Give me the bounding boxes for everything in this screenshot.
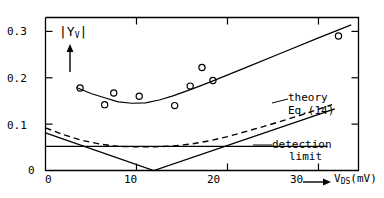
x-axis-arrow [303,179,331,186]
y-axis-label-main: |Y [59,24,75,39]
y-tick-label-0: 0 [28,165,35,176]
y-axis-arrow [67,44,74,72]
theory-annotation: theory [288,92,328,104]
data-point-3 [136,93,142,99]
data-point-6 [199,64,205,70]
x-tick-label-10: 10 [124,174,137,185]
data-point-1 [102,102,108,108]
data-point-5 [187,83,193,89]
y-axis-label-close: | [79,24,87,39]
data-point-2 [111,90,117,96]
x-tick-label-0: 0 [45,174,52,185]
eq14-annotation: Eq.(14) [288,105,334,117]
y-tick-label-0.3: 0.3 [7,26,27,37]
y-tick-label-0.2: 0.2 [7,73,27,84]
x-axis-label: VDS(mV) [334,172,377,185]
theory-leader-line [272,99,288,103]
data-point-4 [172,102,178,108]
x-tick-label-30: 30 [290,174,303,185]
y-tick-label-0.1: 0.1 [7,120,27,131]
y-axis-label: |YV| [59,24,87,39]
limit-annotation: limit [289,151,322,163]
y-axis-label-sub: V [75,31,80,40]
x-axis-label-main: V [334,172,341,185]
x-axis-label-unit: (mV) [350,172,377,185]
x-axis-label-sub: DS [341,177,351,186]
x-tick-label-20: 20 [207,174,220,185]
data-point-8 [335,33,341,39]
